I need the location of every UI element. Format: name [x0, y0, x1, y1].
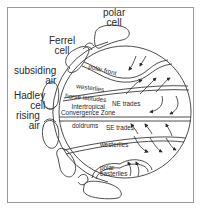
subsiding-air-label: subsiding air [14, 66, 56, 86]
ne-trades-label: NE trades [112, 101, 140, 107]
rising-air-line2: air [16, 121, 40, 131]
westerlies-south-label: westerlies [100, 142, 128, 148]
se-trades-label: SE trades [106, 125, 134, 131]
ferrel-cell-label: Ferrel cell [49, 36, 75, 56]
doldrums-label: doldrums [72, 123, 98, 129]
itcz-label: Intertropical Convergence Zone [61, 104, 115, 117]
polar-cell-line2: cell [103, 18, 125, 28]
polar-easterlies-label: polar easterlies [100, 165, 127, 178]
polar-cell-label: polar cell [103, 8, 125, 28]
subsiding-air-line2: air [14, 76, 56, 86]
ferrel-cell-line2: cell [49, 46, 75, 56]
itcz-line2: Convergence Zone [61, 110, 115, 116]
hadley-cell-label: Hadley cell [14, 91, 45, 111]
rising-air-label: rising air [16, 111, 40, 131]
polar-easterlies-line2: easterlies [100, 171, 127, 177]
